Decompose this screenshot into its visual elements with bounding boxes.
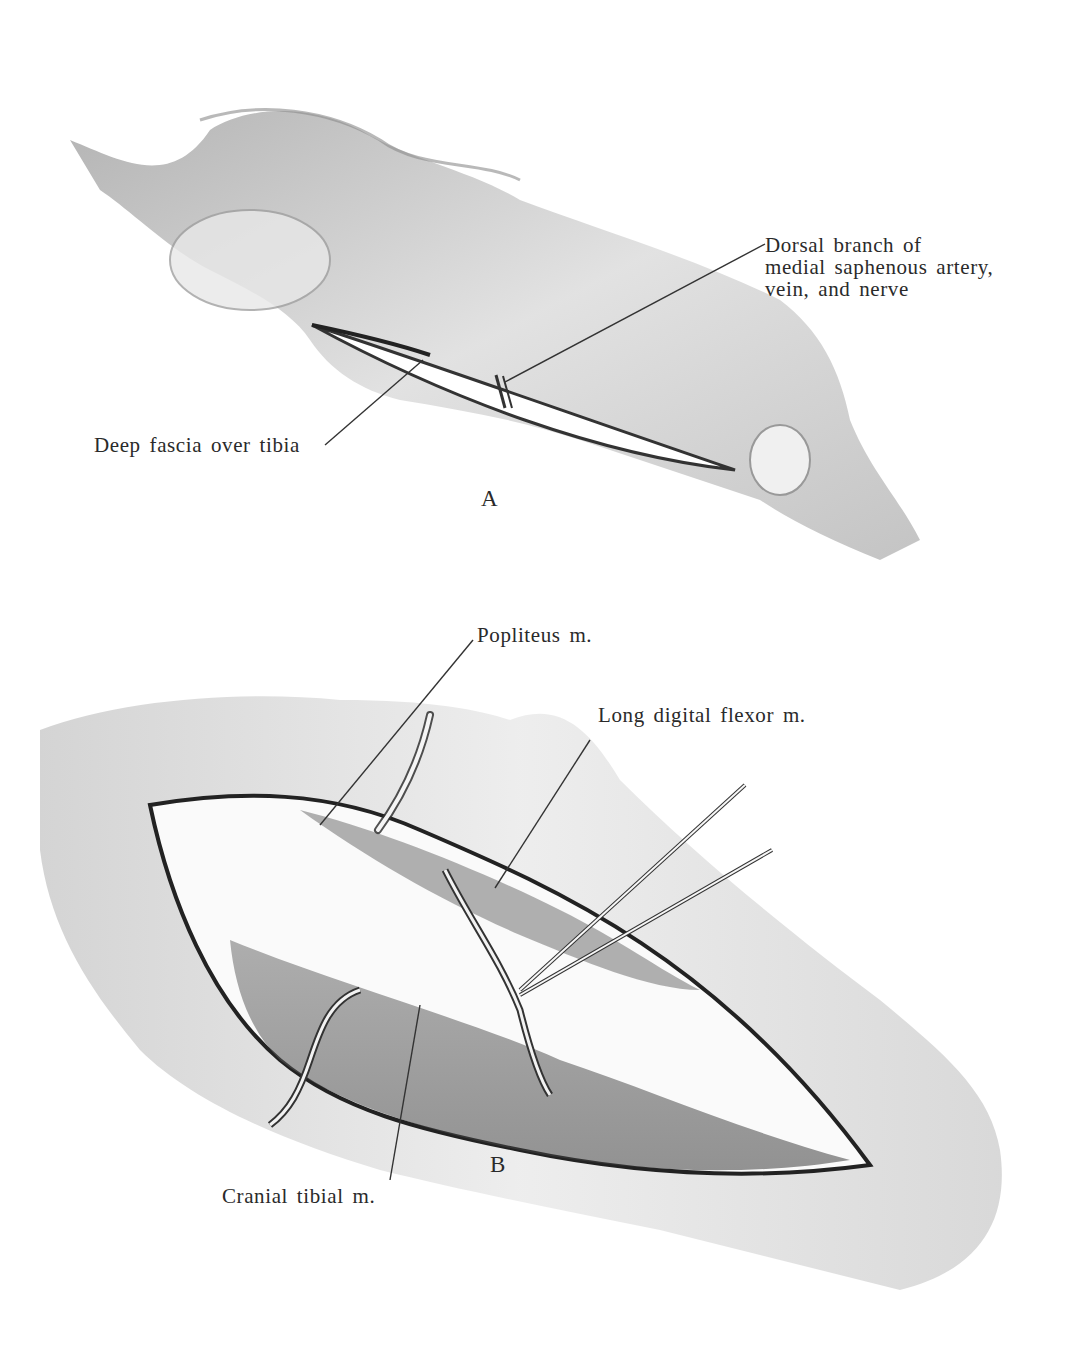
anatomical-illustration xyxy=(0,0,1070,1356)
panel-letter-b: B xyxy=(490,1152,505,1178)
label-popliteus: Popliteus m. xyxy=(477,624,592,646)
label-dorsal-branch-line-2: medial saphenous artery, xyxy=(765,256,993,278)
label-long-digital-flexor: Long digital flexor m. xyxy=(598,704,806,726)
label-cranial-tibial: Cranial tibial m. xyxy=(222,1185,375,1207)
label-dorsal-branch-line-3: vein, and nerve xyxy=(765,278,993,300)
label-dorsal-branch-line-1: Dorsal branch of xyxy=(765,234,993,256)
label-deep-fascia: Deep fascia over tibia xyxy=(94,434,300,456)
panel-letter-a: A xyxy=(481,486,498,512)
label-dorsal-branch: Dorsal branch of medial saphenous artery… xyxy=(765,234,993,300)
panel-b-limb-drawing xyxy=(40,696,1002,1290)
